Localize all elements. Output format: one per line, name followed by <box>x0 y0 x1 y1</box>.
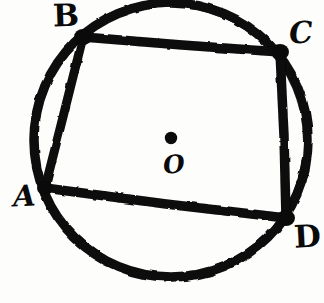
vertex-label-d: D <box>293 220 321 252</box>
vertex-blob-a <box>37 181 53 195</box>
edge-da <box>45 188 286 218</box>
center-point-dot <box>165 132 177 144</box>
vertex-label-c: C <box>288 17 314 49</box>
quadrilateral-abcd <box>45 37 286 218</box>
geometry-figure: A B C D O <box>0 0 324 303</box>
vertex-label-a: A <box>12 181 36 211</box>
edge-bc <box>83 37 280 52</box>
center-label-o: O <box>162 151 186 178</box>
vertex-label-b: B <box>52 0 79 31</box>
edge-cd <box>280 52 286 218</box>
vertex-blob-c <box>271 44 289 60</box>
